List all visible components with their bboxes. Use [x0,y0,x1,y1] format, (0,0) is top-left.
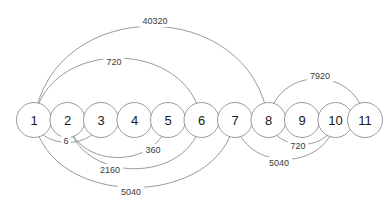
node-label-4: 4 [131,113,138,128]
node-label-6: 6 [198,113,205,128]
node-1[interactable]: 1 [17,103,52,138]
edge-label-1-3: 6 [63,136,68,146]
node-label-10: 10 [328,113,342,128]
edge-label-1-7: 5040 [121,187,141,197]
node-label-2: 2 [64,113,71,128]
node-3[interactable]: 3 [84,103,119,138]
edge-label-1-8: 40320 [142,16,167,26]
node-label-9: 9 [298,113,305,128]
node-6[interactable]: 6 [184,103,219,138]
edge-label-1-6: 720 [106,57,121,67]
edge-label-8-10: 720 [290,141,305,151]
node-label-5: 5 [164,113,171,128]
node-5[interactable]: 5 [151,103,186,138]
node-2[interactable]: 2 [50,103,85,138]
edge-label-2-6: 2160 [100,165,120,175]
nodes-layer: 1234567891011 [17,103,383,138]
edge-label-7-10: 5040 [269,158,289,168]
node-label-11: 11 [358,113,372,128]
node-label-8: 8 [265,113,272,128]
node-label-7: 7 [231,113,238,128]
edge-label-2-5: 360 [145,145,160,155]
node-11[interactable]: 11 [348,103,383,138]
node-label-1: 1 [30,113,37,128]
edge-label-8-11: 7920 [310,71,330,81]
node-7[interactable]: 7 [218,103,253,138]
node-label-3: 3 [97,113,104,128]
node-8[interactable]: 8 [251,103,286,138]
node-9[interactable]: 9 [285,103,320,138]
arc-diagram-svg: 1234567891011 40320720792063602160504072… [0,0,387,211]
arc-diagram-canvas: 1234567891011 40320720792063602160504072… [0,0,387,211]
node-4[interactable]: 4 [117,103,152,138]
